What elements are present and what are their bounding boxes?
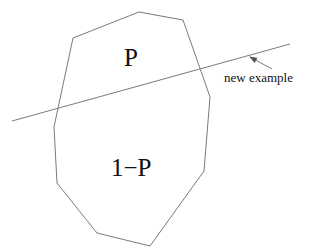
new-example-label: new example [224, 70, 293, 85]
pointer-arrow-icon [250, 57, 272, 69]
diagram-canvas: P 1−P new example [0, 0, 310, 251]
upper-region-label: P [124, 44, 138, 71]
diagram-svg: P 1−P new example [0, 0, 310, 251]
lower-region-label: 1−P [111, 154, 152, 181]
